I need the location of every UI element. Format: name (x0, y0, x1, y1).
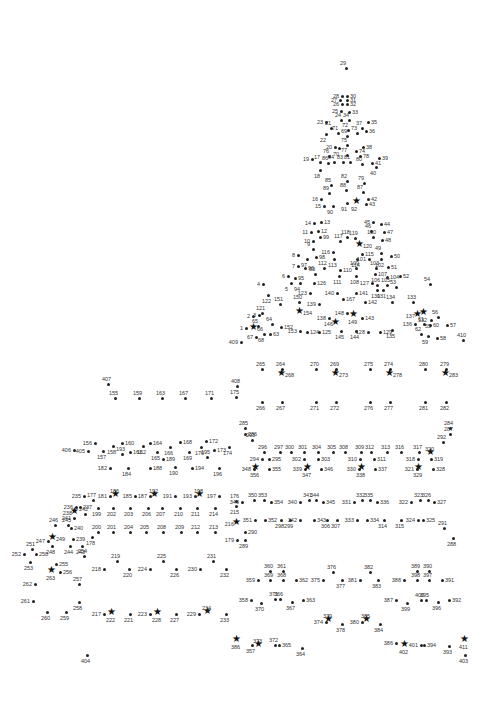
point-number: 403 (459, 658, 468, 664)
point-number: 378 (336, 627, 345, 633)
dot-icon (269, 579, 272, 582)
dot-icon (149, 467, 152, 470)
point-number: 26 (333, 101, 339, 107)
point-number: 111 (333, 279, 341, 285)
point-number: 273 (339, 372, 348, 378)
point-number: 339 (293, 466, 302, 472)
point-number: 199 (92, 511, 101, 517)
point-number: 106 (371, 277, 380, 283)
point-number: 281 (419, 405, 428, 411)
point-number: 370 (255, 606, 264, 612)
point-number: 249 (56, 536, 65, 542)
dot-icon (365, 203, 368, 206)
point-number: 213 (209, 524, 218, 530)
dot-icon (70, 527, 73, 530)
dot-icon (261, 368, 264, 371)
point-number: 35 (371, 119, 377, 125)
dot-icon (355, 275, 358, 278)
dot-icon (299, 330, 302, 333)
dot-icon (361, 499, 364, 502)
dot-icon (290, 282, 293, 285)
point-number: 187 (138, 493, 147, 499)
dot-icon (333, 161, 336, 164)
dot-icon (297, 254, 300, 257)
point-number: 326 (422, 492, 431, 498)
dot-icon (274, 644, 277, 647)
dot-icon (214, 531, 217, 534)
dot-icon (114, 397, 117, 400)
dot-icon (325, 133, 328, 136)
dot-icon (228, 446, 231, 449)
dot-icon (179, 441, 182, 444)
point-number: 137 (406, 313, 415, 319)
point-number: 191 (163, 493, 172, 499)
point-number: 311 (377, 456, 386, 462)
point-number: 338 (356, 472, 365, 478)
point-number: 32 (350, 101, 356, 107)
point-number: 304 (312, 444, 321, 450)
dot-icon (107, 383, 110, 386)
point-number: 267 (276, 405, 285, 411)
dot-icon (318, 303, 321, 306)
dot-icon (341, 579, 344, 582)
dot-icon (361, 621, 364, 624)
dot-icon (112, 531, 115, 534)
point-number: 303 (321, 456, 330, 462)
dot-icon (240, 341, 243, 344)
star-icon: ★ (460, 634, 469, 644)
dot-icon (129, 531, 132, 534)
dot-icon (448, 599, 451, 602)
point-number: 181 (98, 493, 107, 499)
dot-icon (282, 579, 285, 582)
point-number: 395 (420, 592, 429, 598)
point-number: 406 (62, 447, 71, 453)
dot-icon (374, 468, 377, 471)
point-number: 151 (274, 296, 283, 302)
point-number: 62 (415, 326, 421, 332)
point-number: 205 (140, 524, 149, 530)
point-number: 113 (328, 262, 337, 268)
dot-icon (94, 442, 97, 445)
dot-icon (371, 162, 374, 165)
dot-icon (179, 507, 182, 510)
dot-icon (346, 95, 349, 98)
dot-icon (268, 458, 271, 461)
point-number: 409 (229, 339, 238, 345)
point-number: 254 (78, 548, 87, 554)
dot-icon (97, 507, 100, 510)
point-number: 245 (62, 517, 71, 523)
dot-icon (244, 539, 247, 542)
point-number: 133 (407, 294, 416, 300)
point-number: 139 (307, 301, 316, 307)
dot-icon (258, 314, 261, 317)
point-number: 374 (314, 619, 323, 625)
dot-icon (263, 333, 266, 336)
point-number: 376 (327, 564, 336, 570)
dot-icon (356, 519, 359, 522)
point-number: 296 (258, 444, 267, 450)
dot-icon (54, 524, 57, 527)
point-number: 235 (72, 493, 81, 499)
dot-icon (403, 579, 406, 582)
point-number: 75 (341, 137, 347, 143)
dot-icon (382, 289, 385, 292)
dot-icon (315, 499, 318, 502)
dot-icon (337, 132, 340, 135)
dot-icon (445, 401, 448, 404)
point-number: 38 (366, 144, 372, 150)
point-number: 178 (86, 540, 95, 546)
dot-icon (322, 579, 325, 582)
point-number: 347 (302, 472, 311, 478)
dot-icon (302, 599, 305, 602)
point-number: 399 (401, 606, 410, 612)
point-number: 110 (343, 267, 352, 273)
dot-icon (315, 256, 318, 259)
star-icon: ★ (357, 462, 366, 472)
point-number: 401 (409, 642, 418, 648)
dot-icon (174, 466, 177, 469)
point-number: 219 (111, 553, 120, 559)
point-number: 122 (262, 298, 271, 304)
point-number: 375 (311, 577, 320, 583)
dot-icon (250, 599, 253, 602)
point-number: 308 (339, 444, 348, 450)
